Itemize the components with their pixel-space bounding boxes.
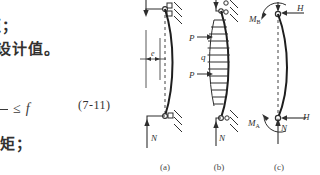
figure-c-label-H-top: H [297, 3, 304, 13]
figure-b-caption: (b) [188, 162, 250, 172]
figure-c-label-moment-top: MB [249, 14, 261, 25]
moment-bottom-symbol: M [248, 118, 256, 128]
formula-expression: y ≤ f [0, 92, 30, 126]
support-hatch-top-b [230, 0, 238, 22]
body-text-line-4: 抗矩； [0, 132, 32, 153]
figure-a: e N (a) [134, 0, 196, 175]
figure-c-label-H-bottom: H [303, 112, 310, 122]
figure-b-label-N: N [219, 133, 225, 143]
arrowhead-moment-bottom [262, 114, 269, 121]
arrowhead-H-bottom [281, 115, 287, 120]
arrowhead-P-top [207, 34, 213, 39]
fraction-bar [0, 109, 8, 110]
deflected-column-c [278, 14, 287, 118]
figure-c-label-moment-bottom: MA [248, 118, 260, 129]
figure-c-caption: (c) [248, 162, 310, 172]
figure-c: MB H MA H N (c) [248, 0, 310, 175]
support-hatch-bottom-b [230, 110, 238, 132]
equation-number: (7-11) [78, 98, 111, 113]
support-hatch-top [174, 2, 182, 24]
label-eccentricity: e [151, 49, 155, 58]
scanned-page: 矩； 力设计值。 y ≤ f (7-11) 抗矩； [0, 0, 320, 175]
figure-a-load-label: N [151, 133, 157, 143]
figure-c-label-N: N [281, 123, 287, 133]
moment-top-symbol: M [249, 14, 257, 24]
deflected-column [165, 9, 173, 116]
formula-right-symbol: f [26, 101, 30, 117]
figure-b-label-P-bottom: P [189, 70, 195, 80]
arrowhead-bottom-load [144, 119, 149, 126]
moment-bottom-subscript: A [256, 123, 260, 129]
roller-top [167, 3, 172, 8]
relation-symbol: ≤ [11, 101, 23, 117]
figure-b-label-P-top: P [189, 33, 195, 43]
figure-a-caption: (a) [134, 162, 196, 172]
fraction: y [0, 100, 8, 120]
arrowhead-H-top [281, 10, 287, 15]
body-text-line-2: 力设计值。 [0, 37, 60, 58]
figure-b-label-q: q [201, 52, 206, 62]
moment-top-subscript: B [257, 19, 261, 25]
support-hatch-bottom [174, 110, 182, 132]
moment-arc-top [262, 3, 286, 18]
figure-b: P q P N (b) [188, 0, 250, 175]
figure-group: e N (a) [130, 0, 320, 175]
body-text-line-1: 矩； [0, 14, 18, 35]
